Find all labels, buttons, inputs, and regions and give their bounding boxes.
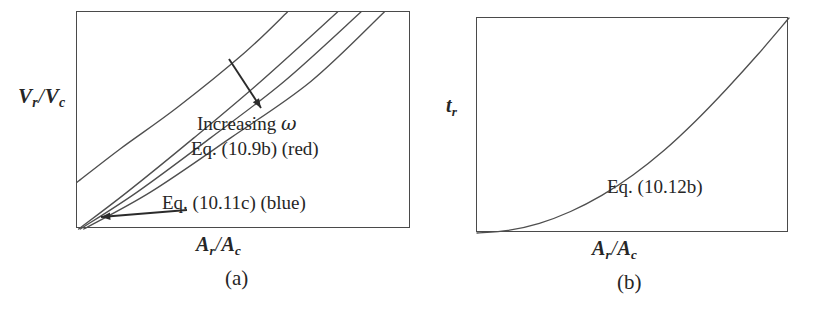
series-line: [477, 18, 789, 233]
x-symbol2-b: A: [617, 237, 631, 259]
x-sub1-a: r: [210, 243, 215, 258]
x-symbol-a: A: [196, 233, 210, 255]
subfigure-caption-a: (a): [225, 266, 248, 291]
annotation-eq-10-11c: Eq. (10.11c) (blue): [162, 192, 306, 214]
annotation-eq-10-12b: Eq. (10.12b): [607, 176, 703, 198]
y-sub1-b: r: [452, 104, 457, 119]
omega-symbol: ω: [281, 112, 297, 134]
axis-label-y-b: tr: [446, 94, 457, 120]
x-sub2-b: c: [631, 247, 637, 262]
annotation-eq-10-9b: Eq. (10.9b) (red): [191, 138, 319, 160]
x-sub1-b: r: [606, 247, 611, 262]
x-symbol-b: A: [592, 237, 606, 259]
figure-root: Vr/Vc Ar/Ac (a) Increasing ω Eq. (10.9b)…: [0, 0, 814, 319]
axis-label-x-a: Ar/Ac: [196, 233, 241, 259]
y-sub2-a: c: [59, 95, 65, 110]
subfigure-caption-b: (b): [617, 270, 642, 295]
x-symbol2-a: A: [221, 233, 235, 255]
y-slash-a: /: [38, 84, 45, 108]
eq-10-11c-pointer-arrow-head: [101, 213, 111, 220]
increasing-text: Increasing: [197, 113, 276, 134]
y-symbol-a: V: [18, 84, 32, 108]
axis-label-x-b: Ar/Ac: [592, 237, 637, 263]
annotation-increasing-omega: Increasing ω: [197, 112, 296, 135]
increasing-omega-arrow: [229, 59, 261, 108]
y-symbol2-a: V: [45, 84, 59, 108]
axis-label-y-a: Vr/Vc: [18, 84, 65, 111]
y-sub1-a: r: [32, 95, 37, 110]
x-sub2-a: c: [235, 243, 241, 258]
increasing-omega-arrow-head: [253, 98, 261, 108]
plot-curves-b: [477, 18, 789, 233]
plot-frame-b: [476, 17, 788, 232]
